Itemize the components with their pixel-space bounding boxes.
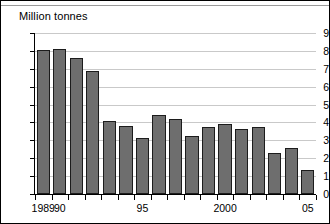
bar: [285, 148, 298, 194]
chart-figure: Million tonnes 0123456789 19899095200005: [0, 0, 330, 224]
x-tick-mark: [85, 195, 86, 200]
x-tick-label: 05: [288, 203, 328, 214]
gridline: [35, 194, 316, 195]
plot-area: [35, 33, 316, 194]
x-tick-mark: [233, 195, 234, 200]
bar: [70, 58, 83, 194]
x-tick-mark: [118, 195, 119, 200]
x-tick-mark: [316, 195, 317, 200]
bar: [218, 124, 231, 194]
bar: [136, 138, 149, 194]
x-tick-mark: [167, 195, 168, 200]
bar: [86, 71, 99, 194]
x-tick-mark: [200, 195, 201, 200]
bar: [202, 127, 215, 194]
bar: [252, 127, 265, 194]
x-tick-label: 2000: [205, 203, 245, 214]
bar: [185, 136, 198, 194]
x-tick-mark: [184, 195, 185, 200]
bar: [37, 50, 50, 194]
bar: [152, 115, 165, 194]
bar: [169, 119, 182, 194]
bar: [119, 126, 132, 194]
bar: [268, 153, 281, 194]
x-tick-mark: [151, 195, 152, 200]
gridline: [35, 33, 316, 34]
x-tick-mark: [217, 195, 218, 200]
gridline: [35, 51, 316, 52]
x-tick-mark: [68, 195, 69, 200]
x-tick-mark: [266, 195, 267, 200]
x-tick-label: 95: [122, 203, 162, 214]
x-tick-label: 90: [40, 203, 80, 214]
bar: [103, 121, 116, 194]
x-tick-mark: [134, 195, 135, 200]
bar: [301, 170, 314, 194]
x-tick-mark: [101, 195, 102, 200]
x-tick-mark: [250, 195, 251, 200]
top-rule-divider: [1, 5, 330, 6]
x-tick-mark: [299, 195, 300, 200]
x-tick-mark: [283, 195, 284, 200]
x-tick-mark: [52, 195, 53, 200]
chart-title: Million tonnes: [19, 10, 88, 22]
bar: [235, 129, 248, 194]
x-tick-mark: [35, 195, 36, 200]
bar: [53, 49, 66, 194]
